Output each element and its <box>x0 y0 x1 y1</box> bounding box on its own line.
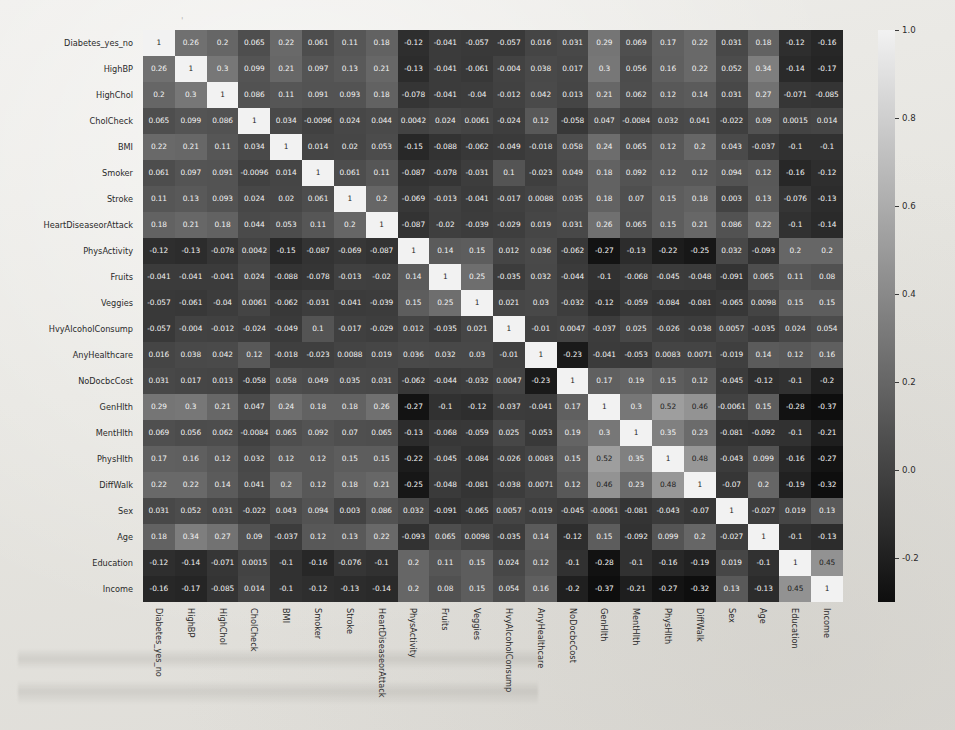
heatmap-cell: -0.038 <box>684 316 716 342</box>
heatmap-cell: -0.23 <box>557 342 589 368</box>
heatmap-cell: 0.013 <box>557 82 589 108</box>
x-axis-tick-label-slot: HeartDiseaseorAttack <box>366 606 398 726</box>
heatmap-cell: 0.17 <box>588 368 620 394</box>
heatmap-cell: -0.078 <box>429 160 461 186</box>
colorbar-tick-mark <box>895 118 899 119</box>
heatmap-cell: -0.019 <box>716 342 748 368</box>
heatmap-cell: -0.023 <box>302 342 334 368</box>
x-axis-tick-label: Smoker <box>313 608 323 639</box>
heatmap-cell: -0.14 <box>175 550 207 576</box>
heatmap-cell: -0.087 <box>302 238 334 264</box>
heatmap-cell: -0.01 <box>493 342 525 368</box>
heatmap-cell: 0.014 <box>302 134 334 160</box>
y-axis-tick-label: HeartDiseaseorAttack <box>0 212 138 238</box>
heatmap-cell: -0.088 <box>270 264 302 290</box>
heatmap-cell: 0.29 <box>588 30 620 56</box>
heatmap-cell: 0.086 <box>207 108 239 134</box>
heatmap-cell: -0.081 <box>461 472 493 498</box>
heatmap-cell: 0.13 <box>175 186 207 212</box>
heatmap-cell: -0.17 <box>175 576 207 602</box>
y-axis-tick-label: Age <box>0 524 138 550</box>
heatmap-cell: 0.1 <box>302 316 334 342</box>
heatmap-cell: 0.058 <box>557 134 589 160</box>
heatmap-cell: 0.061 <box>302 186 334 212</box>
heatmap-cell: 0.29 <box>143 394 175 420</box>
heatmap-cell: 0.094 <box>716 160 748 186</box>
heatmap-cell: 0.12 <box>557 472 589 498</box>
heatmap-cell: 0.15 <box>588 524 620 550</box>
y-axis-tick-label: AnyHealthcare <box>0 342 138 368</box>
heatmap-cell: 0.18 <box>207 212 239 238</box>
heatmap-cell: 0.069 <box>620 30 652 56</box>
heatmap-cell: 0.099 <box>748 446 780 472</box>
heatmap-cell: 0.15 <box>557 446 589 472</box>
heatmap-cell: -0.12 <box>748 368 780 394</box>
heatmap-cell: -0.057 <box>143 290 175 316</box>
heatmap-cell: -0.018 <box>270 342 302 368</box>
heatmap-cell: 0.11 <box>270 82 302 108</box>
heatmap-cell: 0.14 <box>207 472 239 498</box>
heatmap-cell: -0.076 <box>779 186 811 212</box>
heatmap-cell: 0.2 <box>143 82 175 108</box>
heatmap-cell: -0.16 <box>811 30 843 56</box>
heatmap-cell: 0.031 <box>716 82 748 108</box>
heatmap-cell: 0.031 <box>366 368 398 394</box>
x-axis-tick-label: Age <box>758 608 768 624</box>
heatmap-cell: -0.0084 <box>620 108 652 134</box>
x-axis-tick-label: Veggies <box>472 608 482 640</box>
heatmap-cell: 0.19 <box>557 420 589 446</box>
heatmap-cell: -0.017 <box>334 316 366 342</box>
heatmap-cell: 0.032 <box>716 238 748 264</box>
heatmap-cell: 0.15 <box>398 290 430 316</box>
heatmap-cell: -0.1 <box>270 576 302 602</box>
heatmap-cell: 0.091 <box>207 160 239 186</box>
heatmap-cell: -0.027 <box>748 498 780 524</box>
heatmap-cell: -0.041 <box>207 264 239 290</box>
heatmap-cell: 0.11 <box>143 186 175 212</box>
heatmap-cell: 0.019 <box>779 498 811 524</box>
heatmap-cell: -0.12 <box>461 394 493 420</box>
heatmap-cell: -0.1 <box>588 264 620 290</box>
heatmap-cell: 0.065 <box>238 30 270 56</box>
heatmap-cell: 0.091 <box>302 82 334 108</box>
heatmap-cell: -0.078 <box>398 82 430 108</box>
heatmap-cell: 1 <box>398 238 430 264</box>
heatmap-cell: -0.12 <box>779 30 811 56</box>
heatmap-cell: -0.07 <box>684 498 716 524</box>
heatmap-cell: -0.21 <box>811 420 843 446</box>
heatmap-cell: 0.0083 <box>652 342 684 368</box>
heatmap-cell: -0.076 <box>334 550 366 576</box>
heatmap-cell: -0.059 <box>461 420 493 446</box>
heatmap-cell: -0.062 <box>461 134 493 160</box>
heatmap-cell: 0.062 <box>207 420 239 446</box>
heatmap-cell: 1 <box>525 342 557 368</box>
heatmap-cell: 0.35 <box>620 446 652 472</box>
heatmap-cell: 0.3 <box>175 82 207 108</box>
x-axis-tick-label-slot: HighChol <box>207 606 239 726</box>
x-axis-tick-label: CholCheck <box>249 608 259 651</box>
heatmap-cell: -0.004 <box>175 316 207 342</box>
heatmap-cell: 0.025 <box>493 420 525 446</box>
colorbar-tick-text: -0.2 <box>902 553 919 563</box>
heatmap-cell: -0.16 <box>779 160 811 186</box>
heatmap-cell: -0.1 <box>779 134 811 160</box>
heatmap-cell: 0.52 <box>588 446 620 472</box>
heatmap-cell: 0.038 <box>525 56 557 82</box>
heatmap-cell: 0.3 <box>620 394 652 420</box>
heatmap-cell: -0.22 <box>398 446 430 472</box>
heatmap-cell: -0.27 <box>398 394 430 420</box>
heatmap-cell: -0.071 <box>207 550 239 576</box>
y-axis-tick-label: NoDocbcCost <box>0 368 138 394</box>
heatmap-cell: 0.0098 <box>461 524 493 550</box>
heatmap-cell: -0.12 <box>557 524 589 550</box>
x-axis-tick-label-slot: NoDocbcCost <box>557 606 589 726</box>
heatmap-cell: 0.031 <box>557 30 589 56</box>
heatmap-cell: 0.065 <box>429 524 461 550</box>
heatmap-cell: -0.022 <box>716 108 748 134</box>
heatmap-cell: -0.044 <box>429 368 461 394</box>
heatmap-cell: 0.012 <box>493 238 525 264</box>
heatmap-cell: 0.0071 <box>525 472 557 498</box>
heatmap-cell: 0.041 <box>684 108 716 134</box>
heatmap-cell: 0.099 <box>175 108 207 134</box>
heatmap-cell: 0.52 <box>652 394 684 420</box>
